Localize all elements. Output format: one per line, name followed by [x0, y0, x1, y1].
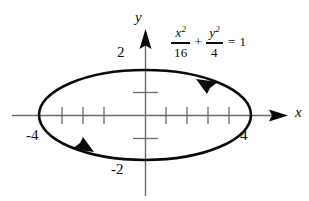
x-tick-label-plus4: 4 — [240, 128, 248, 143]
x-tick-label-minus4: -4 — [26, 128, 39, 143]
equation-annotation: x2 16 + y2 4 = 1 — [170, 24, 246, 61]
equation-term1-denominator: 16 — [171, 44, 190, 61]
equation-term1-exponent: 2 — [181, 24, 186, 34]
y-axis-label: y — [135, 10, 142, 25]
equation-term1-numerator: x2 — [172, 24, 189, 42]
ellipse-figure: -4 4 2 -2 x y x2 16 + y2 4 = 1 — [0, 0, 309, 201]
equation-term2-denominator: 4 — [208, 44, 221, 61]
plot-canvas — [0, 0, 309, 201]
equation-term2-numerator: y2 — [206, 24, 223, 42]
x-axis-label: x — [295, 105, 302, 120]
equation-right-side: 1 — [240, 34, 247, 50]
equation-fraction-x: x2 16 — [171, 24, 190, 61]
equation-equals-sign: = — [228, 34, 236, 50]
y-tick-label-minus2: -2 — [111, 162, 124, 177]
equation-fraction-y: y2 4 — [206, 24, 223, 61]
y-tick-label-plus2: 2 — [117, 45, 125, 60]
equation-term2-exponent: 2 — [215, 24, 220, 34]
equation-operator-plus: + — [194, 34, 202, 50]
